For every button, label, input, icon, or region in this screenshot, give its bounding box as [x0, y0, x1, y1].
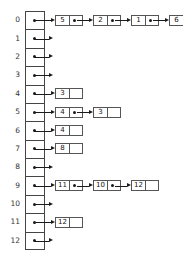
chain-node-null-pointer	[146, 181, 158, 190]
bucket-index-label-4: 4	[4, 90, 20, 98]
bucket-divider	[25, 176, 45, 177]
chain-node-null-pointer	[70, 144, 82, 153]
bucket-divider	[25, 195, 45, 196]
bucket-arrow-line-4	[34, 94, 51, 95]
bucket-arrow-head-8	[49, 165, 53, 169]
bucket-index-label-2: 2	[4, 53, 20, 61]
bucket-arrow-head-3	[49, 73, 53, 77]
chain-node: 12	[55, 217, 83, 228]
bucket-index-label-7: 7	[4, 145, 20, 153]
chain-node-null-pointer	[70, 89, 82, 98]
chain-node: 8	[55, 143, 83, 154]
chain-node-value: 4	[56, 126, 70, 135]
bucket-arrow-line-6	[34, 131, 51, 132]
chain-node-value: 3	[94, 108, 108, 117]
hash-table-diagram: 052161234354364788911101210111212	[0, 0, 183, 260]
bucket-divider	[25, 232, 45, 233]
chain-node: 4	[55, 125, 83, 136]
chain-node-value: 12	[56, 218, 70, 227]
bucket-index-label-1: 1	[4, 35, 20, 43]
bucket-divider	[25, 158, 45, 159]
chain-node-null-pointer	[70, 126, 82, 135]
chain-node: 3	[55, 88, 83, 99]
bucket-arrow-line-12	[34, 241, 49, 242]
chain-node: 12	[131, 180, 159, 191]
bucket-divider	[25, 103, 45, 104]
chain-link-line	[77, 186, 89, 187]
chain-node-value: 11	[56, 181, 70, 190]
chain-node-value: 2	[94, 16, 108, 25]
bucket-arrow-line-7	[34, 149, 51, 150]
bucket-index-label-8: 8	[4, 163, 20, 171]
bucket-arrow-line-11	[34, 222, 51, 223]
chain-link-line	[77, 112, 89, 113]
chain-node-null-pointer	[108, 108, 120, 117]
bucket-arrow-head-2	[49, 54, 53, 58]
bucket-arrow-line-0	[34, 20, 51, 21]
chain-node-value: 10	[94, 181, 108, 190]
chain-node: 6	[169, 15, 183, 26]
bucket-arrow-head-1	[49, 36, 53, 40]
chain-node-value: 5	[56, 16, 70, 25]
bucket-index-label-10: 10	[4, 200, 20, 208]
bucket-arrow-line-5	[34, 112, 51, 113]
bucket-divider	[25, 213, 45, 214]
bucket-arrow-line-9	[34, 186, 51, 187]
bucket-arrow-line-1	[34, 39, 49, 40]
chain-node-value: 12	[132, 181, 146, 190]
bucket-index-label-3: 3	[4, 71, 20, 79]
bucket-divider	[25, 121, 45, 122]
bucket-arrow-head-10	[49, 202, 53, 206]
bucket-divider	[25, 85, 45, 86]
bucket-index-label-0: 0	[4, 16, 20, 24]
chain-node-null-pointer	[70, 218, 82, 227]
bucket-index-label-5: 5	[4, 108, 20, 116]
bucket-arrow-line-8	[34, 167, 49, 168]
chain-node-value: 8	[56, 144, 70, 153]
chain-link-line	[115, 186, 127, 187]
chain-link-line	[153, 20, 165, 21]
bucket-index-label-9: 9	[4, 182, 20, 190]
chain-link-line	[77, 20, 89, 21]
chain-link-line	[115, 20, 127, 21]
bucket-arrow-line-10	[34, 204, 49, 205]
chain-node-value: 6	[170, 16, 183, 25]
bucket-index-label-6: 6	[4, 127, 20, 135]
bucket-arrow-head-12	[49, 238, 53, 242]
bucket-divider	[25, 29, 45, 30]
bucket-divider	[25, 48, 45, 49]
chain-node-value: 3	[56, 89, 70, 98]
chain-node: 3	[93, 107, 121, 118]
bucket-arrow-line-2	[34, 57, 49, 58]
bucket-divider	[25, 140, 45, 141]
chain-node-value: 1	[132, 16, 146, 25]
bucket-arrow-line-3	[34, 75, 49, 76]
bucket-index-label-12: 12	[4, 237, 20, 245]
chain-node-value: 4	[56, 108, 70, 117]
bucket-divider	[25, 66, 45, 67]
bucket-index-label-11: 11	[4, 218, 20, 226]
